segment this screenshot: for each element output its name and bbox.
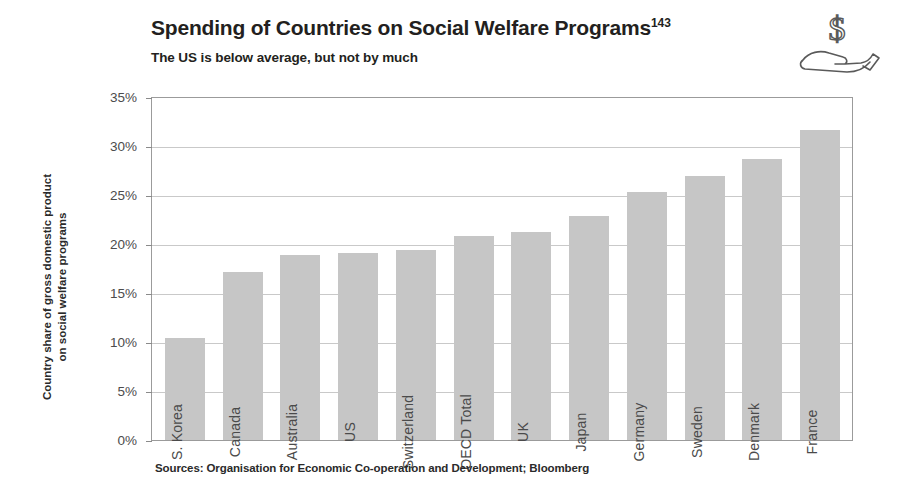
bar-slot: Denmark <box>734 97 792 440</box>
y-axis-title-line-2: on social welfare programs <box>55 112 70 462</box>
bar-slot: S. Korea <box>156 97 214 440</box>
plot-area: S. KoreaCanadaAustraliaUSSwitzerlandOECD… <box>151 97 853 441</box>
y-axis-tick-label: 5% <box>117 384 137 399</box>
bar-category-label: US <box>342 422 358 442</box>
y-axis-tick-label: 10% <box>110 335 137 350</box>
bar[interactable]: Germany <box>627 192 667 440</box>
page-title: Spending of Countries on Social Welfare … <box>151 10 891 41</box>
chart-subtitle: The US is below average, but not by much <box>151 50 891 65</box>
bar-series: S. KoreaCanadaAustraliaUSSwitzerlandOECD… <box>152 97 852 440</box>
bar-slot: US <box>329 97 387 440</box>
y-axis-tick <box>146 441 152 442</box>
chart-title-text: Spending of Countries on Social Welfare … <box>151 16 651 39</box>
bar[interactable]: Japan <box>569 216 609 440</box>
bar-category-label: UK <box>515 422 531 442</box>
y-axis-tick-label: 15% <box>110 286 137 301</box>
bar-slot: Switzerland <box>387 97 445 440</box>
bar-category-label: Australia <box>284 404 300 460</box>
bar[interactable]: US <box>338 253 378 440</box>
y-axis-tick-label: 0% <box>117 433 137 448</box>
bar-slot: Australia <box>272 97 330 440</box>
bar[interactable]: OECD Total <box>454 236 494 440</box>
bar[interactable]: S. Korea <box>165 338 205 440</box>
bar-category-label: France <box>804 410 820 455</box>
bar-category-label: Switzerland <box>400 395 416 470</box>
source-note: Sources: Organisation for Economic Co-op… <box>155 462 589 474</box>
bar-slot: Canada <box>214 97 272 440</box>
bar-category-label: Japan <box>573 412 589 451</box>
chart-header: Spending of Countries on Social Welfare … <box>151 10 891 82</box>
bar-slot: France <box>791 97 849 440</box>
bar-slot: OECD Total <box>445 97 503 440</box>
bar-slot: UK <box>503 97 561 440</box>
y-axis-tick-label: 25% <box>110 188 137 203</box>
title-footnote-superscript: 143 <box>651 16 671 30</box>
bar[interactable]: Sweden <box>685 176 725 440</box>
y-axis-title: Country share of gross domestic product … <box>40 112 90 462</box>
bar-category-label: Denmark <box>746 403 762 461</box>
svg-text:$: $ <box>829 10 846 47</box>
bar[interactable]: France <box>800 130 840 440</box>
y-axis-tick-label: 20% <box>110 237 137 252</box>
bar[interactable]: Denmark <box>742 159 782 440</box>
bar-slot: Germany <box>618 97 676 440</box>
bar-category-label: Germany <box>631 403 647 462</box>
bar-slot: Sweden <box>676 97 734 440</box>
bar[interactable]: UK <box>511 232 551 440</box>
y-axis-tick-label: 30% <box>110 139 137 154</box>
bar[interactable]: Switzerland <box>396 250 436 440</box>
bar-slot: Japan <box>560 97 618 440</box>
bar[interactable]: Canada <box>223 272 263 440</box>
bar[interactable]: Australia <box>280 255 320 440</box>
bar-category-label: Sweden <box>689 406 705 458</box>
hand-holding-dollar-icon: $ <box>791 6 887 80</box>
bar-category-label: OECD Total <box>458 394 474 470</box>
y-axis-title-line-1: Country share of gross domestic product <box>40 112 55 462</box>
bar-category-label: S. Korea <box>169 404 185 460</box>
y-axis-tick-labels: 0%5%10%15%20%25%30%35% <box>95 97 145 441</box>
bar-category-label: Canada <box>227 407 243 457</box>
y-axis-tick-label: 35% <box>110 90 137 105</box>
